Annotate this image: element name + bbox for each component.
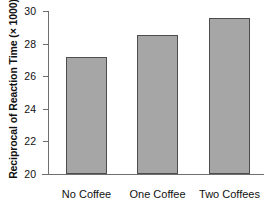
y-tick-30: 30: [43, 11, 48, 12]
x-category-label-one-coffee: One Coffee: [129, 189, 185, 200]
y-tick-label-26: 26: [24, 71, 36, 82]
y-tick-22: 22: [43, 141, 48, 142]
y-tick-label-20: 20: [24, 169, 36, 180]
bar-chart: Reciprocal of Reaction Time (× 1000) 30 …: [0, 0, 272, 205]
y-tick-label-28: 28: [24, 38, 36, 49]
y-axis-title: Reciprocal of Reaction Time (× 1000): [0, 0, 26, 178]
y-axis-title-label: Reciprocal of Reaction Time (× 1000): [7, 0, 19, 179]
y-tick-26: 26: [43, 76, 48, 77]
bar-one-coffee: [137, 35, 178, 174]
x-category-label-no-coffee: No Coffee: [62, 189, 111, 200]
bar-two-coffees: [209, 18, 250, 174]
y-tick-label-30: 30: [24, 6, 36, 17]
y-tick-20: 20: [43, 174, 48, 175]
y-axis-line: [48, 11, 49, 175]
x-category-label-two-coffees: Two Coffees: [199, 189, 260, 200]
y-tick-24: 24: [43, 109, 48, 110]
y-tick-label-22: 22: [24, 136, 36, 147]
plot-area: 30 28 26 24 22 20 No Coffee One Coffee T…: [48, 11, 264, 175]
y-tick-28: 28: [43, 44, 48, 45]
bar-no-coffee: [66, 57, 107, 174]
y-tick-label-24: 24: [24, 104, 36, 115]
x-axis-line: [42, 174, 264, 175]
